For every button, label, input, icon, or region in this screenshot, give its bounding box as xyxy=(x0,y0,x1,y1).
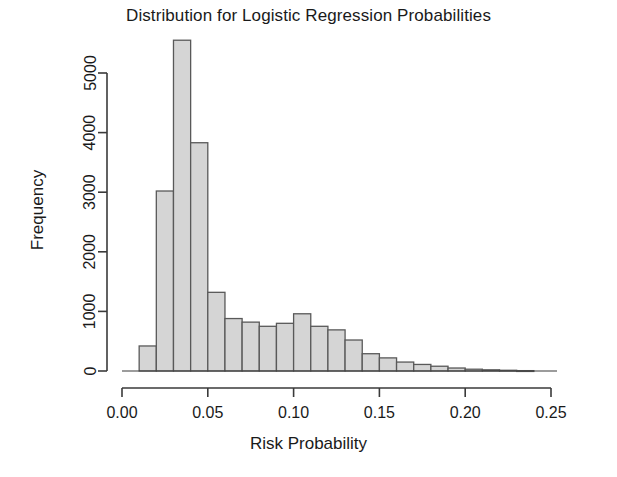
plot-area: 0.000.050.100.150.200.250100020003000400… xyxy=(0,0,617,477)
y-axis-tick-label: 0 xyxy=(82,366,99,375)
histogram-bar xyxy=(156,191,173,371)
histogram-bar xyxy=(345,340,362,371)
y-axis-tick-label: 4000 xyxy=(82,115,99,151)
x-axis-tick-label: 0.15 xyxy=(364,404,395,421)
histogram-bar xyxy=(414,364,431,371)
histogram-bar xyxy=(225,319,242,371)
x-axis-tick-label: 0.00 xyxy=(106,404,137,421)
x-axis-tick-label: 0.25 xyxy=(535,404,566,421)
histogram-bar xyxy=(259,326,276,371)
histogram-bar xyxy=(431,366,448,371)
histogram-bar xyxy=(328,330,345,371)
x-axis-tick-label: 0.10 xyxy=(278,404,309,421)
histogram-bar xyxy=(191,143,208,371)
histogram-bar xyxy=(294,314,311,371)
histogram-bar xyxy=(139,346,156,371)
x-axis-tick-label: 0.05 xyxy=(192,404,223,421)
histogram-bar xyxy=(362,354,379,371)
histogram-bar xyxy=(173,40,190,371)
y-axis-tick-label: 5000 xyxy=(82,55,99,91)
x-axis-tick-label: 0.20 xyxy=(450,404,481,421)
y-axis-tick-label: 1000 xyxy=(82,294,99,330)
y-axis-tick-label: 2000 xyxy=(82,234,99,270)
histogram-bar xyxy=(242,322,259,371)
histogram-bar xyxy=(276,323,293,371)
histogram-bar xyxy=(397,362,414,371)
histogram-bar xyxy=(208,292,225,371)
y-axis-tick-label: 3000 xyxy=(82,174,99,210)
histogram-bar xyxy=(379,358,396,371)
histogram-figure: Distribution for Logistic Regression Pro… xyxy=(0,0,617,477)
histogram-bar xyxy=(311,326,328,371)
